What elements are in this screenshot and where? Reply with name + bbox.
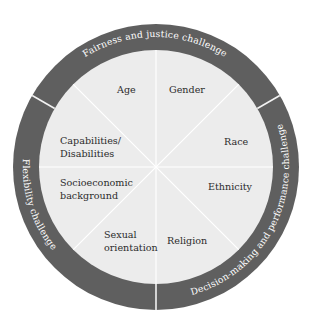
svg-text:Race: Race <box>224 136 249 147</box>
diversity-wheel-diagram: Age Gender Race Ethnicity Religion Sexua… <box>0 0 312 329</box>
svg-text:Gender: Gender <box>169 84 205 95</box>
svg-text:Sexual: Sexual <box>104 229 137 240</box>
svg-text:orientation: orientation <box>104 242 158 253</box>
svg-text:Religion: Religion <box>167 235 207 246</box>
segment-age: Age <box>116 84 136 95</box>
segment-religion: Religion <box>167 235 207 246</box>
svg-text:Ethnicity: Ethnicity <box>208 181 253 192</box>
svg-text:Capabilities/: Capabilities/ <box>60 135 122 146</box>
segment-race: Race <box>224 136 249 147</box>
svg-text:background: background <box>60 190 118 201</box>
svg-text:Age: Age <box>116 84 136 95</box>
svg-text:Socioeconomic: Socioeconomic <box>60 177 133 188</box>
segment-ethnicity: Ethnicity <box>208 181 253 192</box>
svg-text:Disabilities: Disabilities <box>60 148 114 159</box>
segment-gender: Gender <box>169 84 205 95</box>
